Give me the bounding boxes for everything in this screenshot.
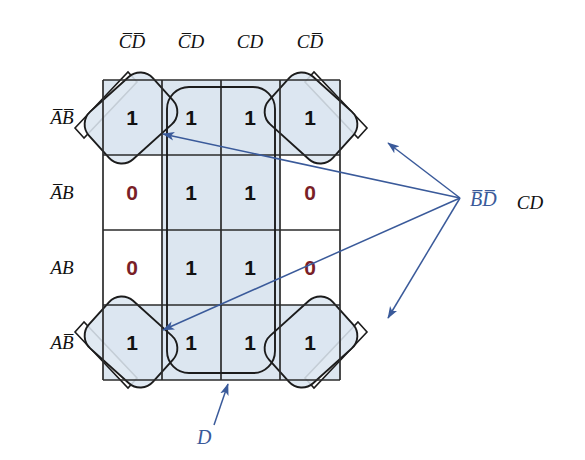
column-header-3: CD̅ xyxy=(297,31,324,52)
cell-value-r3c1: 1 xyxy=(185,331,197,354)
column-header-0: C̅D̅ xyxy=(119,31,146,52)
column-header-1: C̅D xyxy=(178,31,205,52)
cell-value-r1c2: 1 xyxy=(244,181,256,204)
annotation-label-d[interactable]: D xyxy=(196,426,212,448)
row-header-2: AB xyxy=(48,257,74,278)
row-header-1: A̅B xyxy=(48,182,74,203)
cell-value-r1c0: 0 xyxy=(126,181,138,204)
karnaugh-map-diagram: C̅D̅ C̅D CD CD̅ A̅B̅ A̅B AB AB̅ 1 1 1 1 … xyxy=(0,0,585,460)
cell-value-r3c3: 1 xyxy=(304,331,316,354)
cell-value-r3c2: 1 xyxy=(244,331,256,354)
cell-value-r1c1: 1 xyxy=(185,181,197,204)
cell-value-r2c3: 0 xyxy=(304,256,316,279)
cell-value-r0c3: 1 xyxy=(304,106,316,129)
cell-value-r2c2: 1 xyxy=(244,256,256,279)
cell-value-r0c1: 1 xyxy=(185,106,197,129)
cell-value-r2c1: 1 xyxy=(185,256,197,279)
side-label-cd: CD xyxy=(517,192,544,213)
column-header-2: CD xyxy=(237,31,264,52)
cell-value-r0c0: 1 xyxy=(126,106,138,129)
cell-value-r0c2: 1 xyxy=(244,106,256,129)
kmap-canvas: C̅D̅ C̅D CD CD̅ A̅B̅ A̅B AB AB̅ 1 1 1 1 … xyxy=(0,0,585,460)
cell-value-r1c3: 0 xyxy=(304,181,316,204)
cell-value-r2c0: 0 xyxy=(126,256,138,279)
row-header-0: A̅B̅ xyxy=(48,107,74,128)
cell-value-r3c0: 1 xyxy=(126,331,138,354)
annotation-label-bd-bar[interactable]: B̅D̅ xyxy=(470,188,497,210)
row-header-3: AB̅ xyxy=(48,332,74,353)
